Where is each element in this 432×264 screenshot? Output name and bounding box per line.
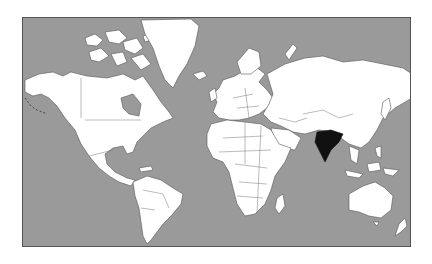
world-map <box>22 17 411 247</box>
region-south-america <box>133 176 183 244</box>
region-iceland <box>193 71 207 80</box>
region-greenland <box>141 19 199 88</box>
region-australia <box>349 182 393 218</box>
region-arctic-islands <box>85 30 151 70</box>
region-madagascar <box>275 194 285 214</box>
region-new-zealand <box>395 218 407 236</box>
dateline <box>25 98 47 114</box>
region-southeast-asia <box>345 146 399 178</box>
region-india <box>315 130 343 162</box>
